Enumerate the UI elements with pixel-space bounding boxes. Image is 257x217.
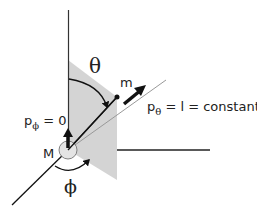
diagonal-axis-lower	[12, 150, 68, 205]
phi-arc-arrow	[55, 160, 89, 170]
small-mass-m	[115, 95, 120, 100]
p-theta-label: pθ = l = constant	[147, 100, 257, 117]
p-phi-value: = 0	[39, 113, 66, 128]
theta-label: θ	[89, 56, 101, 76]
small-mass-label: m	[120, 76, 133, 89]
p-theta-value: = l = constant	[161, 99, 257, 114]
p-phi-label: pϕ = 0	[24, 114, 67, 131]
phi-label: ϕ	[64, 177, 77, 196]
large-mass-label: M	[43, 147, 54, 160]
